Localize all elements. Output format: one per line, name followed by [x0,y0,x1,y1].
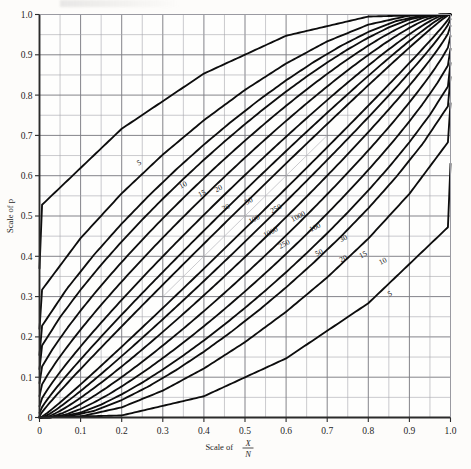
x-tick-label-0.5: 0.5 [239,426,251,436]
y-tick-label-0.9: 0.9 [21,50,33,60]
y-tick-label-0.6: 0.6 [21,171,33,181]
y-tick-label-1.0: 1.0 [21,10,33,20]
x-axis-title-numerator: X [244,438,251,448]
x-tick-label-1.0: 1.0 [445,426,457,436]
y-tick-label-0.7: 0.7 [21,131,33,141]
x-tick-label-0.8: 0.8 [362,426,374,436]
y-tick-label-0.8: 0.8 [21,91,33,101]
chart-figure: 00.10.20.30.40.50.60.70.80.91.000.10.20.… [0,0,471,469]
y-axis-title: Scale of p [5,199,15,233]
x-tick-label-0.2: 0.2 [116,426,128,436]
y-tick-label-0.5: 0.5 [21,211,33,221]
x-tick-label-0.3: 0.3 [157,426,169,436]
x-tick-label-0.6: 0.6 [280,426,292,436]
y-tick-label-0.3: 0.3 [21,292,33,302]
x-axis-title-prefix: Scale of [205,442,233,452]
y-tick-label-0.2: 0.2 [21,332,33,342]
x-tick-label-0.7: 0.7 [321,426,333,436]
x-tick-label-0: 0 [37,426,42,436]
y-tick-label-0.4: 0.4 [21,252,33,262]
y-tick-label-0: 0 [28,413,33,423]
x-axis-title-denominator: N [244,449,252,459]
binomial-confidence-belt-plot: 00.10.20.30.40.50.60.70.80.91.000.10.20.… [0,0,471,469]
x-tick-label-0.9: 0.9 [403,426,415,436]
x-tick-label-0.4: 0.4 [198,426,210,436]
y-tick-label-0.1: 0.1 [21,373,33,383]
x-tick-label-0.1: 0.1 [75,426,87,436]
